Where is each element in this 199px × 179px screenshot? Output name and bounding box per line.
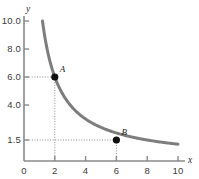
- y-tick-label: 8.0: [0, 43, 21, 54]
- origin-label: 0: [15, 165, 33, 176]
- x-tick-label: 8: [137, 165, 157, 176]
- guide-lines: [24, 77, 116, 161]
- data-point-marker: [51, 73, 58, 80]
- y-tick-label: 4.0: [0, 99, 21, 110]
- x-axis-label: x: [188, 155, 192, 165]
- y-axis-label: y: [26, 4, 30, 14]
- hyperbola-curve: [42, 21, 178, 144]
- chart-container: y x 10.08.06.04.01.5 0246810 AB: [0, 0, 199, 179]
- y-tick-label: 10.0: [0, 15, 21, 26]
- data-point-marker: [113, 136, 120, 143]
- x-tick-label: 4: [76, 165, 96, 176]
- y-tick-label: 1.5: [0, 134, 21, 145]
- data-point-label-a: A: [60, 64, 66, 74]
- data-point-label-b: B: [121, 127, 127, 137]
- plot-area: [0, 0, 199, 179]
- data-point-markers: [51, 73, 120, 143]
- x-tick-label: 2: [45, 165, 65, 176]
- y-tick-label: 6.0: [0, 71, 21, 82]
- x-tick-label: 10: [168, 165, 188, 176]
- x-tick-label: 6: [106, 165, 126, 176]
